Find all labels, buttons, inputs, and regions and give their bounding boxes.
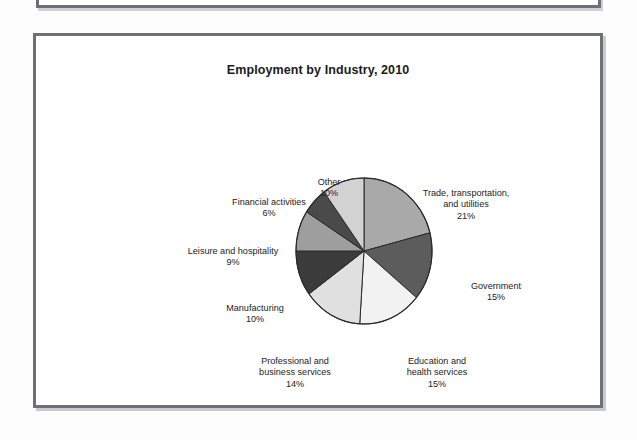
pie-label-education-and-health-services-line1: Education and (381, 356, 493, 367)
pie-label-financial-activities: Financial activities 6% (210, 197, 328, 220)
pie-label-other-name: Other (293, 177, 365, 188)
partial-frame-above (36, 0, 601, 8)
pie-label-trade-transportation-and-utilities: Trade, transportation, and utilities 21% (398, 188, 534, 222)
pie-label-government: Government 15% (444, 281, 548, 304)
pie-label-leisure-and-hospitality-value: 9% (168, 257, 298, 268)
pie-label-education-and-health-services-value: 15% (381, 379, 493, 390)
pie-label-professional-and-business-services-line2: business services (233, 367, 357, 378)
figure-inner-area: Employment by Industry, 2010 Other 10% F… (39, 39, 597, 402)
pie-label-trade-transportation-and-utilities-value: 21% (398, 211, 534, 222)
pie-label-leisure-and-hospitality: Leisure and hospitality 9% (168, 246, 298, 269)
pie-label-professional-and-business-services-value: 14% (233, 379, 357, 390)
pie-chart: Other 10% Financial activities 6% Leisur… (40, 40, 596, 401)
figure-frame: Employment by Industry, 2010 Other 10% F… (33, 33, 603, 408)
pie-label-manufacturing-value: 10% (203, 314, 307, 325)
pie-label-education-and-health-services-line2: health services (381, 367, 493, 378)
pie-label-financial-activities-name: Financial activities (210, 197, 328, 208)
pie-label-manufacturing-name: Manufacturing (203, 303, 307, 314)
pie-label-financial-activities-value: 6% (210, 208, 328, 219)
document-page: Employment by Industry, 2010 Other 10% F… (0, 0, 637, 440)
pie-label-education-and-health-services: Education and health services 15% (381, 356, 493, 390)
pie-label-government-name: Government (444, 281, 548, 292)
pie-label-professional-and-business-services-line1: Professional and (233, 356, 357, 367)
pie-label-professional-and-business-services: Professional and business services 14% (233, 356, 357, 390)
pie-label-leisure-and-hospitality-name: Leisure and hospitality (168, 246, 298, 257)
pie-label-trade-transportation-and-utilities-line2: and utilities (398, 199, 534, 210)
pie-label-trade-transportation-and-utilities-line1: Trade, transportation, (398, 188, 534, 199)
pie-label-manufacturing: Manufacturing 10% (203, 303, 307, 326)
pie-label-government-value: 15% (444, 292, 548, 303)
